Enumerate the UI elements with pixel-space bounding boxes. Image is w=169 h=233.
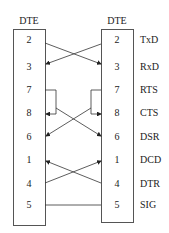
- signal-label: DCD: [140, 154, 161, 165]
- right-pin: 8: [115, 107, 120, 118]
- left-dte-title: DTE: [19, 15, 38, 26]
- left-pin: 2: [27, 34, 32, 45]
- left-pin: 5: [27, 199, 32, 210]
- right-pin: 3: [115, 61, 120, 72]
- wire-dsr: [46, 108, 91, 136]
- right-pin: 6: [115, 131, 120, 142]
- left-pin: 8: [27, 107, 32, 118]
- null-modem-diagram: DTE DTE 2 3 7 8 6 1 4 5 2 3 7 8 6 1 4 5 …: [0, 0, 169, 233]
- wire-rts-loop: [91, 90, 101, 114]
- signal-label: CTS: [140, 107, 158, 118]
- wire-txd-rxd: [45, 43, 101, 64]
- left-pin: 1: [27, 154, 32, 165]
- left-pin: 3: [27, 61, 32, 72]
- left-pin: 7: [27, 84, 32, 95]
- wire-dsr: [56, 108, 101, 136]
- right-connector-box: [102, 30, 134, 223]
- right-dte-title: DTE: [107, 15, 126, 26]
- signal-label: RxD: [140, 61, 159, 72]
- right-pin: 5: [115, 199, 120, 210]
- signal-label: DSR: [140, 131, 160, 142]
- left-connector-box: [14, 30, 46, 226]
- signal-label: SIG: [140, 199, 156, 210]
- signal-label: RTS: [140, 84, 158, 95]
- wire-rts-loop: [45, 90, 56, 114]
- left-pin: 4: [27, 178, 32, 189]
- right-pin: 2: [115, 34, 120, 45]
- left-pin: 6: [27, 131, 32, 142]
- right-pin: 4: [115, 178, 120, 189]
- right-pin: 7: [115, 84, 120, 95]
- right-pin: 1: [115, 154, 120, 165]
- signal-label: TxD: [140, 34, 158, 45]
- signal-label: DTR: [140, 178, 160, 189]
